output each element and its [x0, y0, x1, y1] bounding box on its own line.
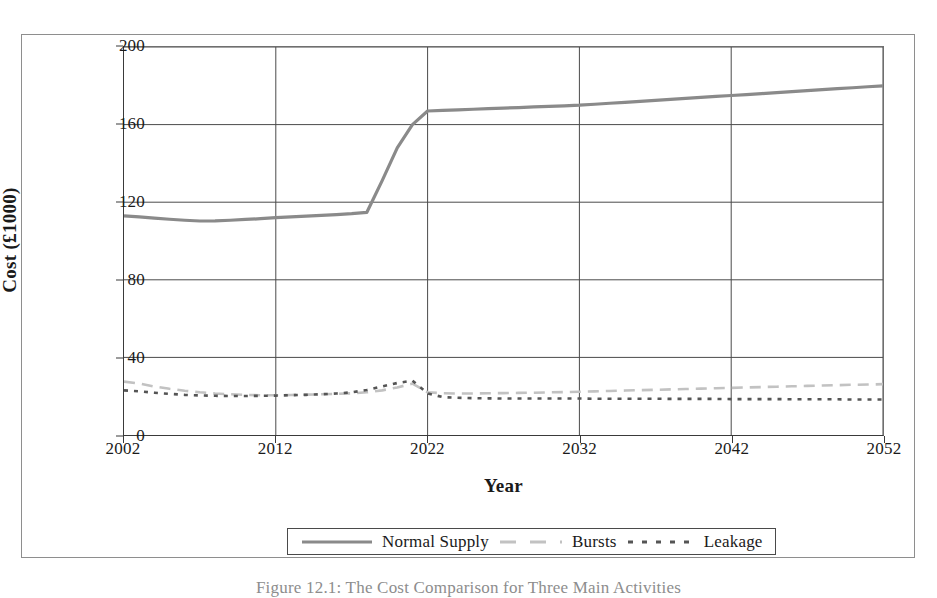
- y-axis-title: Cost (£1000): [0, 187, 21, 292]
- legend-label: Leakage: [704, 532, 763, 552]
- y-tick-mark: [116, 280, 123, 281]
- x-tick-mark: [275, 436, 276, 443]
- legend-item: Bursts: [498, 532, 617, 552]
- plot-canvas: [124, 47, 883, 435]
- y-tick-mark: [116, 124, 123, 125]
- figure-caption: Figure 12.1: The Cost Comparison for Thr…: [0, 578, 937, 598]
- y-tick-mark: [116, 358, 123, 359]
- y-tick-mark: [116, 46, 123, 47]
- y-tick-label: 80: [128, 270, 145, 290]
- legend-label: Normal Supply: [382, 532, 489, 552]
- legend-swatch-dotted: [626, 537, 696, 547]
- y-tick-mark: [116, 436, 123, 437]
- figure-frame: 04080120160200 200220122022203220422052 …: [21, 34, 915, 558]
- legend-label: Bursts: [572, 532, 617, 552]
- x-tick-mark: [123, 436, 124, 443]
- y-tick-mark: [116, 202, 123, 203]
- y-tick-label: 40: [128, 348, 145, 368]
- x-axis-title: Year: [123, 475, 884, 497]
- legend-item: Normal Supply: [300, 532, 489, 552]
- plot-area: [123, 46, 884, 436]
- x-tick-mark: [427, 436, 428, 443]
- legend-item: Leakage: [626, 532, 763, 552]
- legend-swatch-dashed: [498, 537, 564, 547]
- x-tick-mark: [580, 436, 581, 443]
- x-tick-mark: [732, 436, 733, 443]
- x-tick-mark: [884, 436, 885, 443]
- chart-legend: Normal SupplyBurstsLeakage: [287, 528, 776, 555]
- legend-swatch-solid: [300, 537, 374, 547]
